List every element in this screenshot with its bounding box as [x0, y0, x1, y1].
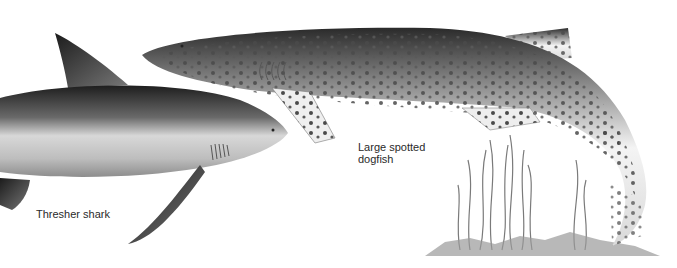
dogfish-label: Large spotted dogfish: [358, 141, 448, 165]
seaweed-cluster: [458, 135, 586, 250]
thresher-shark-label: Thresher shark: [36, 208, 110, 220]
dogfish-label-line2: dogfish: [358, 153, 448, 165]
shark-illustration: [0, 0, 677, 268]
dogfish-label-line1: Large spotted: [358, 141, 448, 153]
